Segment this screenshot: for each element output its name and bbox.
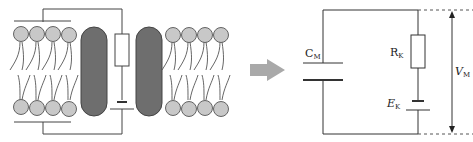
ion-channel-protein-right [136,27,162,116]
lipid-tails-right [162,42,230,100]
circuit-wires [323,10,418,134]
capacitor-icon [303,63,343,80]
lipid-tails-left [10,42,78,100]
voltage-label: VM [455,65,470,79]
right-arrow-icon [250,59,285,81]
capacitor-label: CM [305,47,321,61]
membrane-circuit-wire [14,9,134,134]
battery-label: EK [386,97,401,111]
membrane-panel [10,9,230,134]
lipid-heads-left [14,27,77,117]
membrane-circuit-diagram: CM RK EK VM [0,0,473,142]
battery-icon [406,101,430,110]
resistor-icon [411,35,425,68]
equivalent-circuit: CM RK EK VM [303,10,473,134]
ion-channel-protein-left [81,27,107,116]
membrane-resistor-icon [115,34,129,66]
lipid-heads-right [166,28,229,117]
resistor-label: RK [390,46,404,60]
